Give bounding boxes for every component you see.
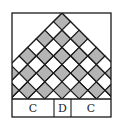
pyramid-diagram: CDC xyxy=(0,0,121,125)
shaded-diamond-cell xyxy=(0,82,2,99)
region-label-c: C xyxy=(87,102,95,115)
label-strip: CDC xyxy=(29,99,95,117)
unshaded-diamond-cell xyxy=(114,73,121,90)
region-label-d: D xyxy=(58,102,67,115)
region-label-c: C xyxy=(29,102,37,115)
unshaded-diamond-cell xyxy=(0,73,10,90)
diamond-cells xyxy=(0,13,121,99)
